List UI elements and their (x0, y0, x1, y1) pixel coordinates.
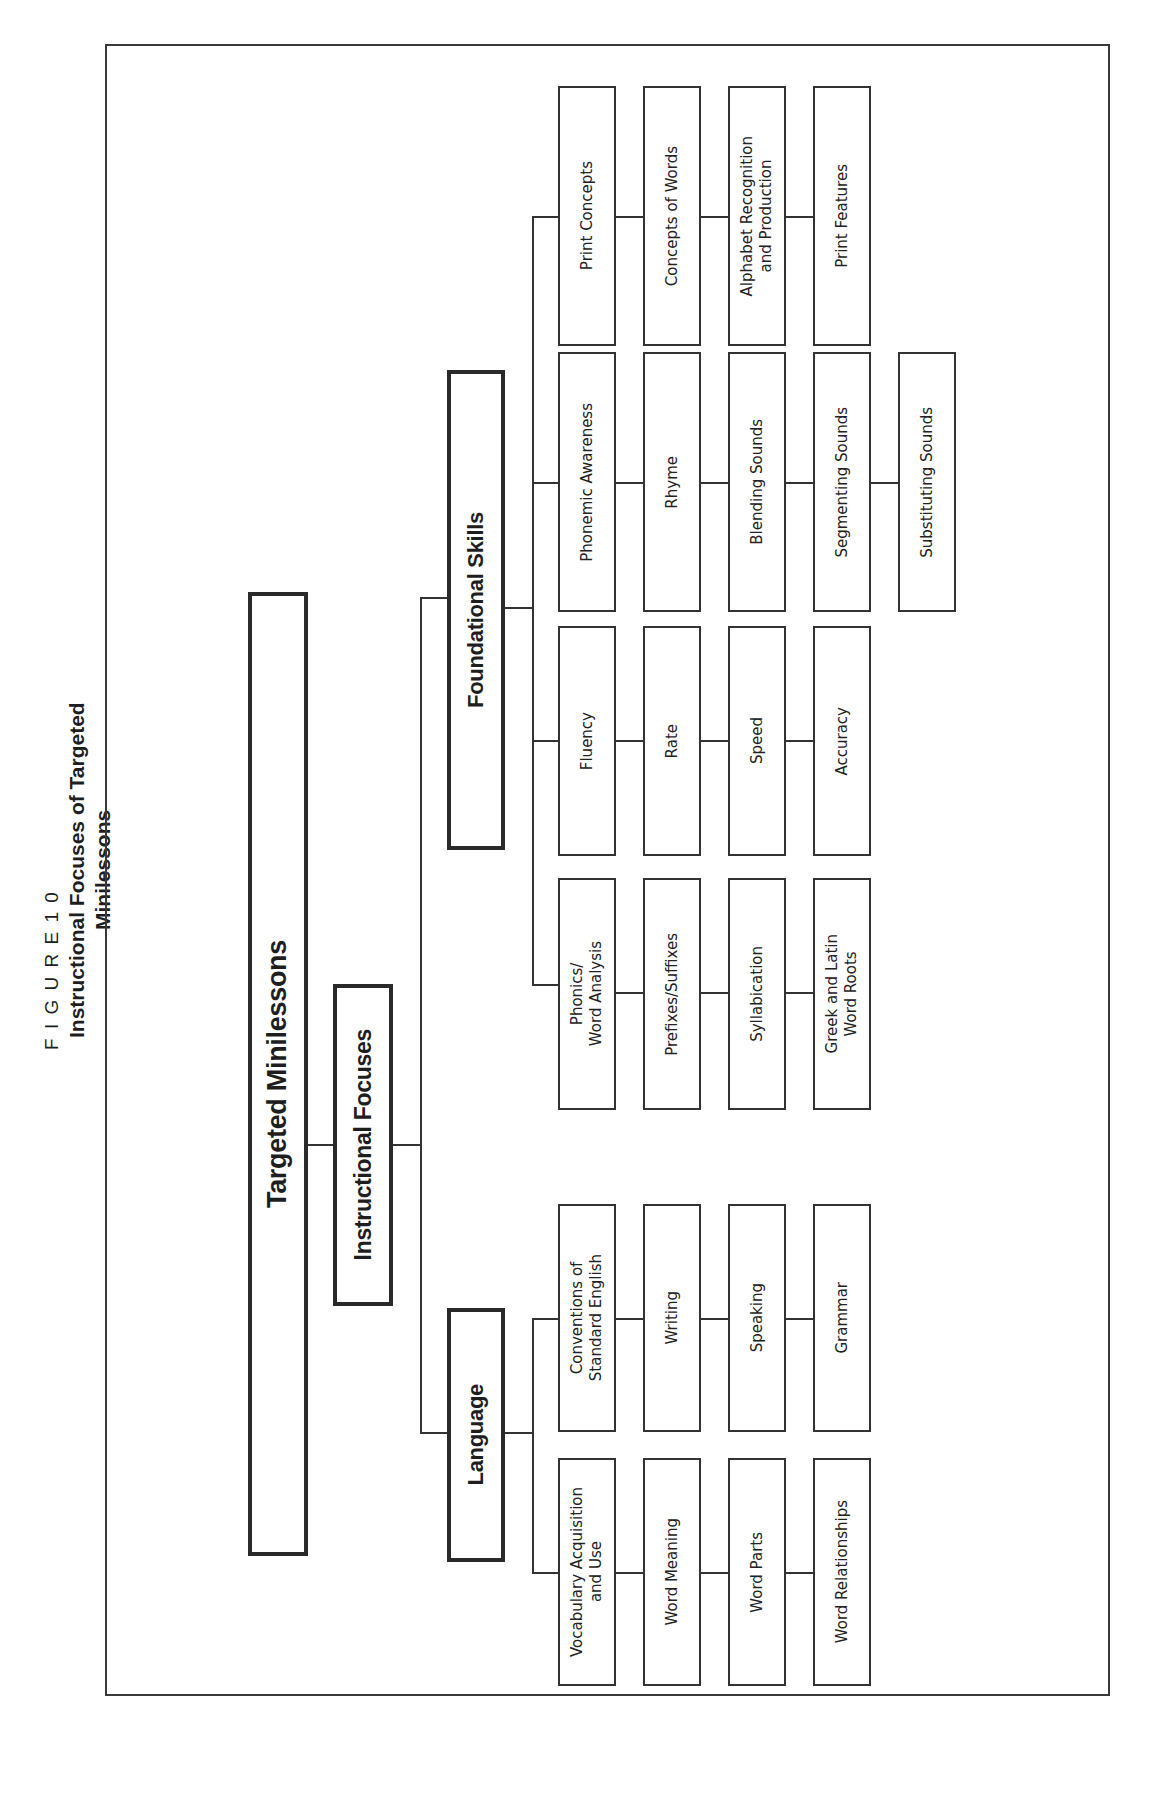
connector (786, 992, 814, 994)
connector (616, 216, 644, 218)
connector (701, 740, 729, 742)
leaf-print-concepts: Print Concepts (558, 86, 616, 346)
figure-title: Instructional Focuses of Targeted Minile… (64, 640, 92, 1100)
leaf-phonemic-awareness: Phonemic Awareness (558, 352, 616, 612)
leaf-alphabet-recognition: Alphabet Recognition and Production (728, 86, 786, 346)
connector (871, 482, 899, 484)
connector (701, 1318, 729, 1320)
connector (532, 984, 560, 986)
leaf-writing: Writing (643, 1204, 701, 1432)
connector (393, 1144, 421, 1146)
leaf-grammar: Grammar (813, 1204, 871, 1432)
leaf-speaking: Speaking (728, 1204, 786, 1432)
connector (786, 1318, 814, 1320)
leaf-rate: Rate (643, 626, 701, 856)
connector (532, 482, 560, 484)
connector (308, 1144, 334, 1146)
leaf-segmenting-sounds: Segmenting Sounds (813, 352, 871, 612)
connector (786, 740, 814, 742)
leaf-phonics-word-analysis: Phonics/ Word Analysis (558, 878, 616, 1110)
connector (505, 1432, 533, 1434)
connector (532, 1318, 534, 1572)
leaf-word-meaning: Word Meaning (643, 1458, 701, 1686)
root-node: Targeted Minilessons (248, 592, 308, 1556)
connector (420, 597, 422, 1434)
leaf-substituting-sounds: Substituting Sounds (898, 352, 956, 612)
leaf-print-features: Print Features (813, 86, 871, 346)
leaf-syllabication: Syllabication (728, 878, 786, 1110)
leaf-word-relationships: Word Relationships (813, 1458, 871, 1686)
connector (532, 740, 560, 742)
connector (701, 216, 729, 218)
language-node: Language (447, 1308, 505, 1562)
foundational-skills-label: Foundational Skills (462, 512, 490, 708)
connector (701, 992, 729, 994)
connector (420, 1432, 448, 1434)
figure-label: F I G U R E 1 0 (40, 840, 66, 1100)
leaf-conventions-standard-english: Conventions of Standard English (558, 1204, 616, 1432)
instructional-focuses-node: Instructional Focuses (333, 984, 393, 1306)
leaf-fluency: Fluency (558, 626, 616, 856)
instructional-focuses-label: Instructional Focuses (349, 1029, 378, 1260)
leaf-vocabulary-acquisition: Vocabulary Acquisition and Use (558, 1458, 616, 1686)
connector (532, 216, 560, 218)
connector (616, 482, 644, 484)
connector (701, 482, 729, 484)
leaf-accuracy: Accuracy (813, 626, 871, 856)
connector (616, 992, 644, 994)
leaf-word-parts: Word Parts (728, 1458, 786, 1686)
connector (532, 216, 534, 984)
connector (616, 1318, 644, 1320)
connector (532, 1318, 560, 1320)
connector (616, 740, 644, 742)
leaf-concepts-of-words: Concepts of Words (643, 86, 701, 346)
leaf-prefixes-suffixes: Prefixes/Suffixes (643, 878, 701, 1110)
foundational-skills-node: Foundational Skills (447, 370, 505, 850)
connector (420, 597, 448, 599)
leaf-greek-latin-roots: Greek and Latin Word Roots (813, 878, 871, 1110)
leaf-blending-sounds: Blending Sounds (728, 352, 786, 612)
connector (532, 1572, 560, 1574)
root-node-label: Targeted Minilessons (261, 940, 295, 1208)
connector (786, 1572, 814, 1574)
connector (505, 607, 533, 609)
connector (701, 1572, 729, 1574)
language-label: Language (462, 1384, 490, 1486)
leaf-rhyme: Rhyme (643, 352, 701, 612)
leaf-speed: Speed (728, 626, 786, 856)
connector (616, 1572, 644, 1574)
connector (786, 482, 814, 484)
connector (786, 216, 814, 218)
